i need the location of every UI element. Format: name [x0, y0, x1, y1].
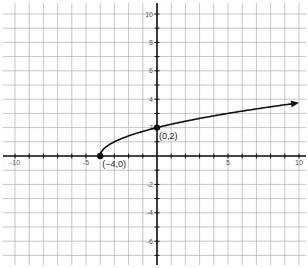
y-tick-label: 4: [149, 96, 153, 103]
y-tick-label: -6: [147, 238, 153, 245]
curve-path: [100, 103, 296, 156]
y-tick-label: -4: [147, 209, 153, 216]
y-tick-label: 8: [149, 39, 153, 46]
point-label: (−4,0): [102, 159, 126, 169]
x-tick-label: 10: [295, 159, 303, 166]
x-tick-label: -10: [10, 159, 20, 166]
annotated-points: (−4,0)(0,2): [97, 124, 178, 169]
y-tick-label: -2: [147, 181, 153, 188]
x-tick-label: 5: [226, 159, 230, 166]
function-graph: -10-5510108642-2-4-6 (−4,0)(0,2): [0, 0, 308, 268]
x-tick-label: -5: [83, 159, 89, 166]
y-tick-label: 10: [145, 11, 153, 18]
arrow-head-icon: [291, 100, 299, 107]
point-label: (0,2): [159, 131, 178, 141]
y-tick-label: 6: [149, 67, 153, 74]
